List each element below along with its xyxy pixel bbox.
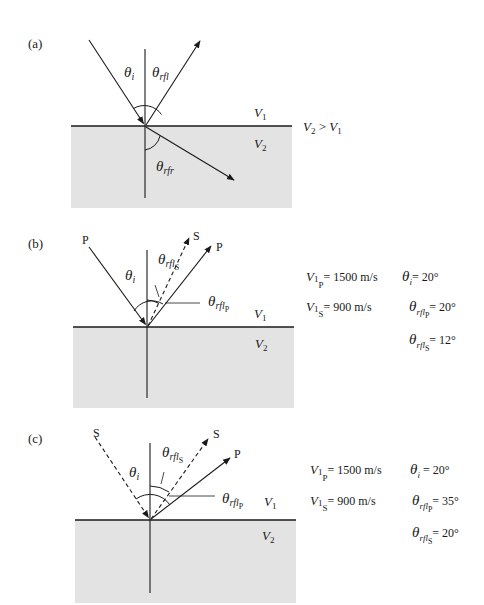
reflected-s-label: S [213, 427, 220, 441]
incident-s-label: S [93, 426, 100, 440]
panel-c-parameters: V1P= 1500 m/s V1S= 900 m/s θi= 20° θrflP… [310, 461, 459, 546]
reflected-p-angle-arc [136, 494, 170, 505]
v1s-value: V1S= 900 m/s [306, 299, 372, 319]
panel-c-label: (c) [28, 431, 42, 446]
reflected-p-label: P [234, 447, 241, 461]
theta-rfl-s-value: θrflS= 20° [412, 524, 459, 546]
theta-rfl-p-label: θrflP [222, 490, 244, 511]
panel-a: (a) θi θrfl θrfr V1 V2 V2 > V1 [28, 36, 342, 208]
theta-rfl-p-value: θrflP= 35° [412, 492, 459, 514]
v1p-value: V1P= 1500 m/s [310, 462, 382, 483]
v1-label: V1 [254, 105, 266, 122]
theta-i-value: θi= 20° [410, 461, 450, 480]
reflected-p-label: P [216, 240, 223, 254]
reflected-s-ray [151, 439, 208, 519]
theta-i-label: θi [125, 267, 135, 285]
theta-i-label: θi [129, 464, 139, 482]
panel-b-parameters: V1P= 1500 m/s V1S= 900 m/s θi= 20° θrflP… [306, 268, 456, 353]
v1s-value: V1S= 900 m/s [310, 493, 376, 513]
v1-label: V1 [264, 494, 276, 511]
velocity-relation-label: V2 > V1 [303, 119, 342, 136]
theta-rfl-s-leader [155, 285, 159, 297]
reflected-s-angle-arc [150, 486, 169, 492]
incident-s-ray [95, 437, 149, 518]
reflected-ray [146, 41, 200, 125]
theta-rfl-p-value: θrflP= 20° [409, 298, 456, 320]
incident-p-label: P [82, 233, 89, 247]
theta-i-value: θi= 20° [402, 268, 439, 287]
panel-b: (b) P S P θi θrflS θrflP V1 V2 V1P= 1500… [28, 229, 456, 408]
v1-label: V1 [254, 306, 266, 323]
seismic-reflection-diagram: (a) θi θrfl θrfr V1 V2 V2 > V1 (b) P S P… [0, 0, 484, 605]
theta-i-label: θi [124, 64, 134, 82]
theta-rfl-s-label: θrflS [162, 444, 183, 465]
theta-rfl-s-leader [161, 472, 164, 484]
incident-p-ray [89, 247, 146, 325]
v1p-value: V1P= 1500 m/s [306, 269, 378, 290]
theta-rfl-s-value: θrflS= 12° [409, 331, 456, 353]
theta-rfl-s-label: θrflS [158, 251, 179, 272]
panel-c: (c) S S P θi θrflS θrflP V1 V2 V1P= 1500… [28, 426, 459, 603]
theta-rfl-p-label: θrflP [208, 293, 230, 314]
incident-ray [89, 40, 144, 124]
reflected-s-label: S [193, 229, 200, 243]
panel-a-label: (a) [28, 36, 42, 51]
panel-b-label: (b) [28, 236, 43, 251]
incident-p-angle-arc [134, 301, 163, 311]
theta-rfl-label: θrfl [152, 64, 169, 82]
